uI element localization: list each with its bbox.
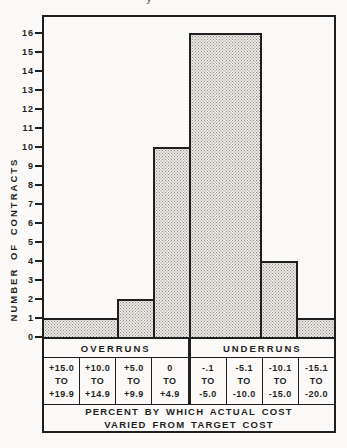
range-cell: -15.1TO-20.0 <box>299 358 334 404</box>
range-cell-line: +15.0 <box>49 363 74 373</box>
range-cell-line: TO <box>274 376 287 386</box>
y-tick-mark <box>35 70 42 72</box>
y-tick-label: 12 <box>10 103 34 115</box>
range-cell-line: TO <box>55 376 68 386</box>
y-tick-mark <box>35 32 42 34</box>
y-tick-mark <box>35 184 42 186</box>
y-tick-label: 5 <box>10 236 34 248</box>
range-cell-line: +5.0 <box>124 363 144 373</box>
histogram-bar <box>189 33 225 337</box>
range-cell-line: +9.9 <box>124 389 144 399</box>
range-cell-line: TO <box>238 376 251 386</box>
cropped-title-text: y <box>141 0 157 4</box>
y-tick-label: 9 <box>10 160 34 172</box>
y-tick-label: 1 <box>10 312 34 324</box>
y-tick-mark <box>35 89 42 91</box>
y-tick-mark <box>35 317 42 319</box>
range-cell-line: +4.9 <box>160 389 180 399</box>
histogram-bar <box>153 147 189 337</box>
y-tick-label: 3 <box>10 274 34 286</box>
range-cell-line: TO <box>163 376 176 386</box>
range-cell-line: -15.0 <box>269 389 292 399</box>
histogram-bar <box>298 318 334 337</box>
y-tick-mark <box>35 241 42 243</box>
y-tick-mark <box>35 165 42 167</box>
range-cell-line: +19.9 <box>49 389 74 399</box>
range-cell-line: TO <box>201 376 214 386</box>
range-cells-row: +15.0TO+19.9+10.0TO+14.9+5.0TO+9.90TO+4.… <box>44 358 334 405</box>
y-tick-label: 7 <box>10 198 34 210</box>
y-tick-label: 13 <box>10 84 34 96</box>
y-tick-label: 15 <box>10 46 34 58</box>
range-cell-line: -20.0 <box>305 389 328 399</box>
histogram-bar <box>80 318 116 337</box>
group-header-row: OVERRUNS UNDERRUNS <box>44 339 334 358</box>
cropped-title-remnant: y <box>141 0 157 6</box>
y-tick-mark <box>35 51 42 53</box>
y-tick-label: 0 <box>10 331 34 343</box>
range-cell: -10.1TO-15.0 <box>263 358 299 404</box>
range-cell: -.1TO-5.0 <box>191 358 227 404</box>
x-axis-caption-line2: VARIED FROM TARGET COST <box>104 419 273 430</box>
y-tick-label: 4 <box>10 255 34 267</box>
y-tick-mark <box>35 279 42 281</box>
y-tick-mark <box>35 127 42 129</box>
range-cell-line: 0 <box>167 363 173 373</box>
y-tick-mark <box>35 336 42 338</box>
range-cell-line: TO <box>310 376 323 386</box>
range-cell-line: +14.9 <box>85 389 110 399</box>
y-tick-mark <box>35 108 42 110</box>
range-cell: +10.0TO+14.9 <box>80 358 116 404</box>
range-cell: +15.0TO+19.9 <box>44 358 80 404</box>
range-cell-line: -10.1 <box>269 363 292 373</box>
x-axis-caption-line1: PERCENT BY WHICH ACTUAL COST <box>85 406 293 417</box>
range-cell-line: TO <box>91 376 104 386</box>
y-tick-mark <box>35 203 42 205</box>
y-tick-mark <box>35 222 42 224</box>
range-cell-line: -5.1 <box>235 363 253 373</box>
range-cell: +5.0TO+9.9 <box>116 358 152 404</box>
y-tick-label: 8 <box>10 179 34 191</box>
y-tick-label: 14 <box>10 65 34 77</box>
y-tick-mark <box>35 298 42 300</box>
range-cell: -5.1TO-10.0 <box>227 358 263 404</box>
histogram-bar <box>225 33 261 337</box>
range-cell-line: -15.1 <box>305 363 328 373</box>
x-axis-table: OVERRUNS UNDERRUNS +15.0TO+19.9+10.0TO+1… <box>44 337 334 431</box>
x-axis-caption: PERCENT BY WHICH ACTUAL COST VARIED FROM… <box>44 405 334 431</box>
histogram-bar <box>44 318 80 337</box>
range-cell-line: -.1 <box>202 363 214 373</box>
y-tick-mark <box>35 260 42 262</box>
y-tick-label: 2 <box>10 293 34 305</box>
range-cell-line: TO <box>127 376 140 386</box>
range-cell-line: -5.0 <box>199 389 217 399</box>
y-tick-label: 16 <box>10 27 34 39</box>
range-cell-line: +10.0 <box>85 363 110 373</box>
y-tick-mark <box>35 146 42 148</box>
group-header-underruns: UNDERRUNS <box>191 339 335 357</box>
histogram-bar <box>117 299 153 337</box>
range-cell: 0TO+4.9 <box>152 358 190 404</box>
range-cell-line: -10.0 <box>233 389 256 399</box>
y-tick-label: 11 <box>10 122 34 134</box>
group-header-overruns: OVERRUNS <box>44 339 191 357</box>
histogram-figure: y NUMBER OF CONTRACTS 012345678910111213… <box>0 0 347 448</box>
histogram-bar <box>262 261 298 337</box>
y-tick-label: 6 <box>10 217 34 229</box>
y-tick-label: 10 <box>10 141 34 153</box>
